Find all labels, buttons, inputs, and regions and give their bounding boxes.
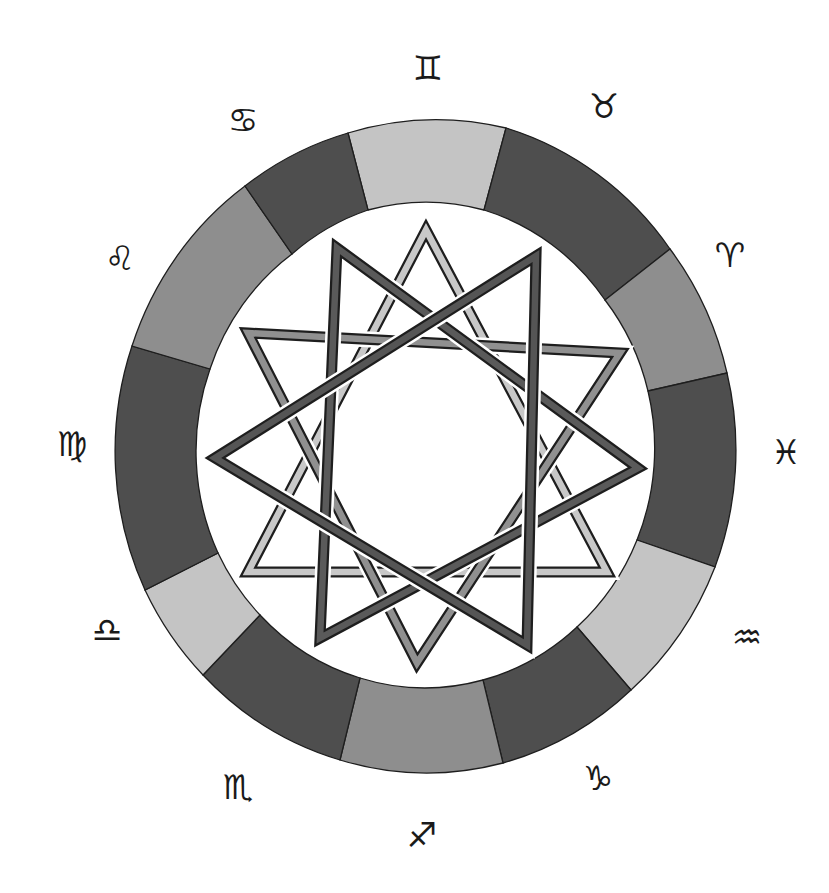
- gemini-icon: ♊: [403, 43, 453, 93]
- capricorn-icon: ♑: [573, 753, 623, 803]
- scorpio-icon: ♏: [213, 762, 263, 812]
- taurus-icon: ♉: [579, 81, 629, 131]
- leo-icon: ♌: [95, 233, 145, 283]
- zodiac-wheel: [0, 0, 829, 893]
- aquarius-icon: ♒: [722, 612, 772, 662]
- virgo-icon: ♍: [47, 419, 97, 469]
- ring-segment-sagittarius: [340, 678, 503, 773]
- cancer-icon: ♋: [218, 95, 268, 145]
- inner-disk: [199, 210, 655, 686]
- pisces-icon: ♓: [761, 427, 811, 477]
- zodiac-diagram: ♊♉♈♓♒♑♐♏♎♍♌♋: [0, 0, 829, 893]
- aries-icon: ♈: [705, 230, 755, 280]
- ring-segment-gemini: [348, 120, 506, 210]
- sagittarius-icon: ♐: [397, 810, 447, 860]
- libra-icon: ♎: [82, 605, 132, 655]
